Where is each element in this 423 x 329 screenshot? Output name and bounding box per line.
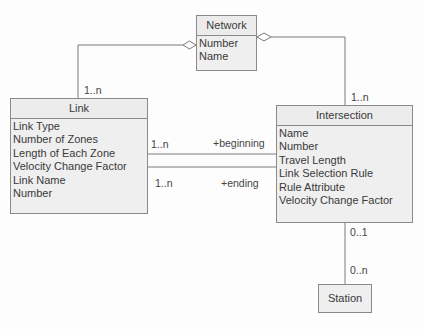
- role-beginning: +beginning: [213, 137, 265, 149]
- multiplicity-intersection-station-top: 0..1: [350, 226, 368, 238]
- attribute: Number: [199, 37, 256, 50]
- aggregation-diamond-right-icon: [257, 33, 271, 41]
- multiplicity-network-link: 1..n: [84, 84, 102, 96]
- class-link-attributes: Link Type Number of Zones Length of Each…: [11, 119, 147, 202]
- multiplicity-ending: 1..n: [155, 177, 173, 189]
- attribute: Length of Each Zone: [13, 147, 147, 160]
- class-link[interactable]: Link Link Type Number of Zones Length of…: [10, 98, 148, 214]
- aggregation-diamond-left-icon: [183, 41, 196, 49]
- attribute: Travel Length: [279, 154, 412, 167]
- attribute: Link Name: [13, 174, 147, 187]
- attribute: Velocity Change Factor: [279, 194, 412, 207]
- attribute: Name: [279, 127, 412, 140]
- network-intersection-aggregation: [271, 37, 345, 105]
- multiplicity-beginning: 1..n: [151, 138, 169, 150]
- class-intersection[interactable]: Intersection Name Number Travel Length L…: [276, 105, 413, 223]
- attribute: Velocity Change Factor: [13, 160, 147, 173]
- class-network[interactable]: Network Number Name: [196, 15, 257, 71]
- class-intersection-attributes: Name Number Travel Length Link Selection…: [277, 126, 412, 209]
- class-station-name: Station: [319, 285, 371, 312]
- attribute: Name: [199, 50, 256, 63]
- attribute: Number of Zones: [13, 133, 147, 146]
- attribute: Link Selection Rule: [279, 167, 412, 180]
- class-link-name: Link: [11, 99, 147, 119]
- attribute: Rule Attribute: [279, 181, 412, 194]
- multiplicity-network-intersection: 1..n: [351, 91, 369, 103]
- role-ending: +ending: [221, 177, 259, 189]
- class-intersection-name: Intersection: [277, 106, 412, 126]
- class-network-attributes: Number Name: [197, 36, 256, 66]
- attribute: Number: [279, 140, 412, 153]
- class-station[interactable]: Station: [318, 284, 372, 313]
- multiplicity-intersection-station-bottom: 0..n: [350, 264, 368, 276]
- attribute: Number: [13, 187, 147, 200]
- attribute: Link Type: [13, 120, 147, 133]
- class-network-name: Network: [197, 16, 256, 36]
